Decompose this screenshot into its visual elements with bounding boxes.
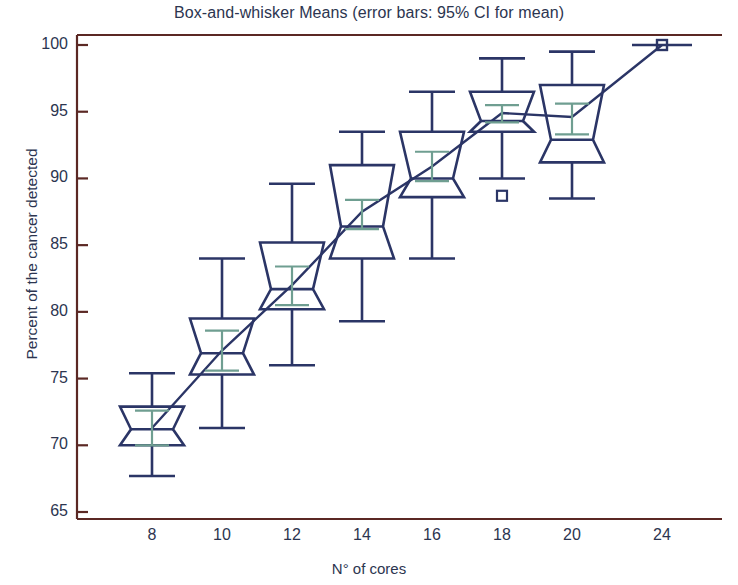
box-plot-group [632,40,692,50]
box-plot-group [330,132,394,321]
box-plot-group [260,184,324,365]
box-plot-group [540,52,604,199]
box-plot-group [120,373,184,476]
y-axis-ticks [77,45,88,512]
box-whisker-chart: Box-and-whisker Means (error bars: 95% C… [0,0,738,585]
box-plot-group [400,92,464,259]
plot-canvas [0,0,738,585]
outlier-marker [497,191,507,201]
box-plot-group [190,258,254,427]
